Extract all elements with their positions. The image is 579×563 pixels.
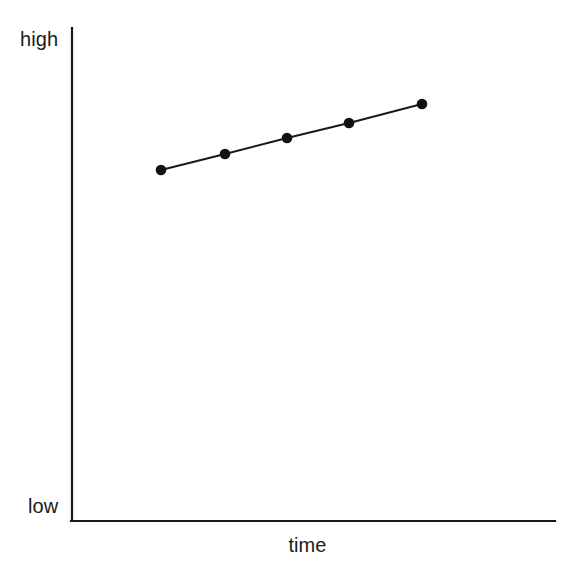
x-axis-label: time (0, 535, 579, 555)
data-point-marker (156, 165, 167, 176)
data-point-marker (344, 118, 355, 129)
data-point-marker (282, 133, 293, 144)
y-axis-low-label: low (28, 496, 58, 516)
data-series-trend (156, 99, 428, 176)
plot-area (0, 0, 579, 563)
axes-group (71, 28, 555, 521)
data-point-marker (220, 149, 231, 160)
y-axis-high-label: high (20, 29, 58, 49)
data-point-marker (417, 99, 428, 110)
line-chart-figure: high low time (0, 0, 579, 563)
